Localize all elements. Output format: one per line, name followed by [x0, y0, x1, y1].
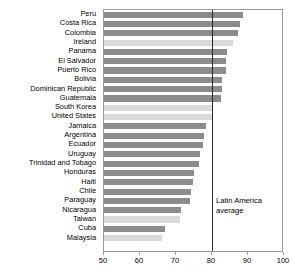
category-label: Dominican Republic — [0, 84, 100, 93]
category-label: Colombia — [0, 28, 100, 37]
category-label: Guatemala — [0, 93, 100, 102]
bar-row — [104, 10, 282, 19]
bar — [104, 161, 199, 167]
bar-row — [104, 140, 282, 149]
x-tick-label: 80 — [207, 256, 215, 265]
bar — [104, 151, 200, 157]
bar — [104, 133, 204, 139]
bar — [104, 123, 206, 129]
bar-row — [104, 75, 282, 84]
bar — [104, 114, 212, 120]
bar-row — [104, 57, 282, 66]
category-label: Cuba — [0, 223, 100, 232]
category-label: Argentina — [0, 130, 100, 139]
category-label: Malaysia — [0, 233, 100, 242]
x-tick-mark — [175, 252, 176, 255]
category-label: Peru — [0, 9, 100, 18]
x-tick-mark — [283, 252, 284, 255]
x-tick-label: 50 — [99, 256, 107, 265]
x-tick-label: 60 — [135, 256, 143, 265]
bar — [104, 86, 222, 92]
bar-row — [104, 47, 282, 56]
category-label: Honduras — [0, 167, 100, 176]
bar-row — [104, 38, 282, 47]
bar — [104, 142, 203, 148]
category-label: Haiti — [0, 177, 100, 186]
bar — [104, 67, 226, 73]
bar — [104, 198, 190, 204]
x-tick-mark — [139, 252, 140, 255]
bar — [104, 77, 222, 83]
x-tick-mark — [247, 252, 248, 255]
bar — [104, 12, 243, 18]
bar-row — [104, 224, 282, 233]
x-axis: 5060708090100 — [103, 252, 283, 276]
category-label: South Korea — [0, 102, 100, 111]
x-tick-label: 100 — [277, 256, 290, 265]
category-label: Uruguay — [0, 149, 100, 158]
category-label: Ecuador — [0, 139, 100, 148]
bar-row — [104, 103, 282, 112]
category-label: Trinidad and Tobago — [0, 158, 100, 167]
bar-row — [104, 187, 282, 196]
bar — [104, 105, 212, 111]
plot-area: Latin America average — [103, 9, 283, 252]
category-label: Ireland — [0, 37, 100, 46]
bar — [104, 235, 162, 241]
bar — [104, 216, 180, 222]
bar-row — [104, 66, 282, 75]
bar-row — [104, 85, 282, 94]
bar-row — [104, 29, 282, 38]
category-label: Panama — [0, 46, 100, 55]
category-axis-labels: PeruCosta RicaColombiaIrelandPanamaEl Sa… — [0, 9, 100, 252]
bar — [104, 207, 181, 213]
bar-row — [104, 94, 282, 103]
bar — [104, 49, 227, 55]
x-tick-label: 90 — [243, 256, 251, 265]
x-tick-mark — [211, 252, 212, 255]
bar-row — [104, 19, 282, 28]
bar — [104, 189, 191, 195]
bar — [104, 58, 226, 64]
category-label: Nicaragua — [0, 205, 100, 214]
category-label: El Salvador — [0, 56, 100, 65]
bar — [104, 170, 194, 176]
x-tick-label: 70 — [171, 256, 179, 265]
latin-america-average-label: Latin America average — [216, 196, 282, 216]
category-label: Puerto Rico — [0, 65, 100, 74]
bar-row — [104, 168, 282, 177]
bar-row — [104, 131, 282, 140]
bar-row — [104, 150, 282, 159]
bar — [104, 40, 233, 46]
bar-row — [104, 122, 282, 131]
bar-row — [104, 178, 282, 187]
category-label: Bolivia — [0, 74, 100, 83]
category-label: Costa Rica — [0, 18, 100, 27]
bar-row — [104, 112, 282, 121]
bar — [104, 30, 238, 36]
bar — [104, 21, 240, 27]
category-label: Chile — [0, 186, 100, 195]
category-label: Jamaica — [0, 121, 100, 130]
bar-row — [104, 159, 282, 168]
bar — [104, 226, 165, 232]
bar — [104, 95, 221, 101]
bar — [104, 179, 193, 185]
category-label: United States — [0, 111, 100, 120]
bar-row — [104, 215, 282, 224]
x-tick-mark — [103, 252, 104, 255]
bar-row — [104, 234, 282, 243]
latin-america-average-line — [212, 10, 213, 251]
category-label: Taiwan — [0, 214, 100, 223]
bar-chart: PeruCosta RicaColombiaIrelandPanamaEl Sa… — [0, 0, 295, 278]
category-label: Paraguay — [0, 195, 100, 204]
